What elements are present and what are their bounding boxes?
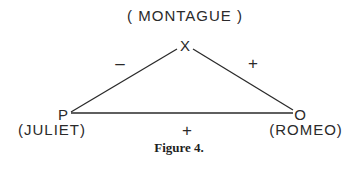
node-p-name: (JULIET) <box>18 122 86 137</box>
edge-x-o <box>193 49 293 110</box>
node-x-letter: X <box>180 38 190 53</box>
figure-caption: Figure 4. <box>154 141 204 154</box>
node-o-letter: O <box>294 107 306 122</box>
edge-p-o-sign: + <box>182 122 192 139</box>
node-x-name: ( MONTAGUE ) <box>127 8 243 23</box>
node-o-name: (ROMEO) <box>269 122 343 137</box>
node-p-letter: P <box>58 107 68 122</box>
edge-p-x-sign: – <box>115 55 124 72</box>
edge-x-o-sign: + <box>248 55 258 72</box>
balance-triangle-diagram: ( MONTAGUE ) X P (JULIET) O (ROMEO) – + … <box>0 0 358 172</box>
